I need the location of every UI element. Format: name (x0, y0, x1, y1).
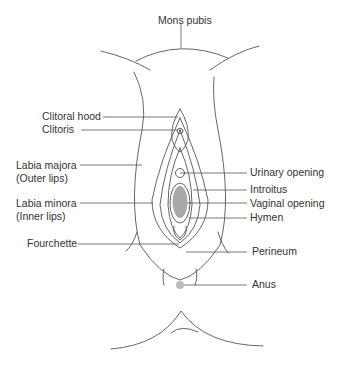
label-mons-pubis: Mons pubis (158, 14, 212, 27)
right-hip-crease (210, 46, 259, 70)
anatomy-illustration (0, 0, 343, 370)
label-fourchette: Fourchette (27, 237, 77, 250)
label-clitoral-hood: Clitoral hood (42, 110, 101, 123)
right-thigh-crease (218, 232, 228, 253)
mons-pubis-contour (136, 49, 228, 61)
label-hymen: Hymen (250, 211, 283, 224)
gluteal-cleft (171, 328, 198, 333)
buttocks-contour (111, 311, 263, 349)
label-labia-minora: Labia minora (Inner lips) (16, 197, 77, 223)
label-anus: Anus (252, 278, 276, 291)
label-clitoris: Clitoris (42, 123, 74, 136)
left-thigh-crease (126, 232, 137, 251)
label-perineum: Perineum (252, 245, 297, 258)
anus-shape (176, 281, 184, 289)
label-introitus: Introitus (250, 183, 287, 196)
label-vaginal-opening: Vaginal opening (250, 197, 325, 210)
right-buttock-crease (195, 269, 197, 285)
hymen-shape (173, 186, 188, 218)
outer-contour (134, 72, 226, 280)
left-hip-crease (101, 51, 150, 70)
anatomy-diagram: Mons pubis Clitoral hood Clitoris Labia … (0, 0, 343, 370)
label-urinary-opening: Urinary opening (250, 166, 324, 179)
left-buttock-crease (163, 269, 164, 285)
label-labia-majora: Labia majora (Outer lips) (16, 159, 77, 185)
